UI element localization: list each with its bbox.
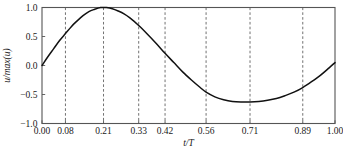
- x-tick-label-7: 0.89: [294, 126, 311, 136]
- y-tick-label-2: 0.0: [26, 61, 38, 71]
- x-tick-label-6: 0.71: [242, 126, 259, 136]
- x-tick-label-3: 0.33: [130, 126, 147, 136]
- plot-area-background: [42, 8, 335, 124]
- y-axis-title: u/max(u): [2, 48, 13, 82]
- x-axis-title: t/T: [183, 138, 194, 148]
- line-chart: 0.000.080.210.330.420.560.710.891.00−1.0…: [0, 0, 343, 149]
- x-tick-label-5: 0.56: [198, 126, 215, 136]
- y-tick-label-3: 0.5: [26, 32, 38, 42]
- x-tick-label-2: 0.21: [95, 126, 112, 136]
- y-tick-label-4: 1.0: [26, 3, 38, 13]
- y-tick-label-0: −1.0: [20, 119, 37, 129]
- x-tick-label-1: 0.08: [57, 126, 74, 136]
- y-tick-label-1: −0.5: [20, 90, 37, 100]
- x-tick-label-8: 1.00: [327, 126, 343, 136]
- x-tick-label-4: 0.42: [157, 126, 174, 136]
- chart-figure: 0.000.080.210.330.420.560.710.891.00−1.0…: [0, 0, 343, 149]
